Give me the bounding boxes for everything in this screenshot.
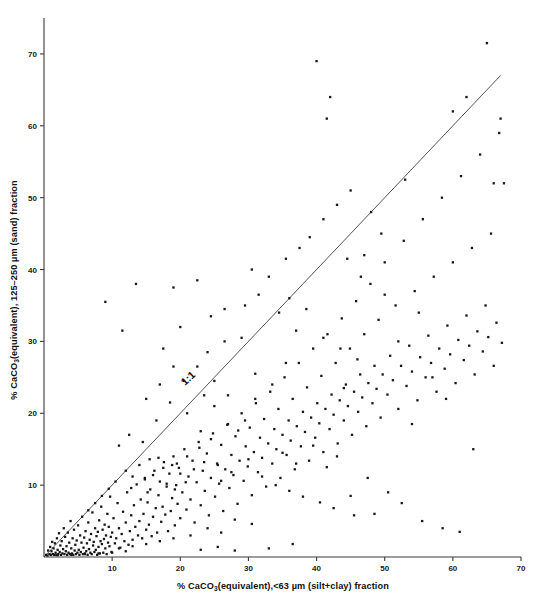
- data-point: [389, 355, 391, 357]
- data-point: [103, 538, 105, 540]
- data-point: [91, 553, 93, 555]
- data-point: [89, 539, 91, 541]
- data-point: [288, 490, 290, 492]
- data-point: [168, 472, 170, 474]
- data-point: [206, 527, 208, 529]
- data-point: [101, 543, 103, 545]
- data-point: [326, 466, 328, 468]
- data-point: [136, 483, 138, 485]
- data-point: [476, 330, 478, 332]
- data-point: [363, 254, 365, 256]
- data-point: [367, 477, 369, 479]
- data-point: [324, 408, 326, 410]
- data-point: [332, 414, 334, 416]
- data-point: [397, 340, 399, 342]
- data-point: [258, 294, 260, 296]
- data-point: [253, 451, 255, 453]
- data-point: [283, 376, 285, 378]
- data-point: [195, 481, 197, 483]
- data-point: [97, 552, 99, 554]
- data-point: [375, 388, 377, 390]
- data-point: [163, 461, 165, 463]
- data-point: [86, 542, 88, 544]
- data-point: [445, 398, 447, 400]
- data-point: [312, 444, 314, 446]
- data-point: [61, 552, 63, 554]
- data-point: [465, 96, 467, 98]
- data-point: [86, 554, 88, 556]
- data-point: [128, 434, 130, 436]
- data-point: [214, 495, 216, 497]
- data-point: [339, 347, 341, 349]
- data-point: [377, 319, 379, 321]
- data-point: [203, 394, 205, 396]
- data-point: [279, 477, 281, 479]
- data-point: [261, 475, 263, 477]
- data-point: [110, 536, 112, 538]
- data-point: [169, 401, 171, 403]
- data-point: [51, 541, 53, 543]
- data-point: [78, 549, 80, 551]
- data-point: [261, 457, 263, 459]
- data-point: [224, 468, 226, 470]
- data-point: [125, 521, 127, 523]
- data-point: [234, 435, 236, 437]
- data-point: [93, 551, 95, 553]
- data-point: [373, 513, 375, 515]
- data-point: [220, 480, 222, 482]
- data-point: [232, 474, 234, 476]
- data-point: [499, 117, 501, 119]
- data-point: [185, 508, 187, 510]
- data-point: [162, 467, 164, 469]
- data-point: [130, 514, 132, 516]
- data-point: [267, 442, 269, 444]
- data-point: [171, 497, 173, 499]
- data-point: [449, 353, 451, 355]
- data-point: [115, 537, 117, 539]
- data-point: [403, 240, 405, 242]
- data-point: [46, 554, 48, 556]
- data-point: [213, 380, 215, 382]
- data-point: [82, 553, 84, 555]
- data-point: [118, 444, 120, 446]
- data-point: [172, 455, 174, 457]
- data-point: [125, 550, 127, 552]
- data-point: [112, 517, 114, 519]
- data-point: [94, 527, 96, 529]
- data-point: [65, 550, 67, 552]
- data-point: [196, 279, 198, 281]
- data-point: [106, 513, 108, 515]
- x-tick-label: 20: [176, 564, 185, 573]
- data-point: [68, 541, 70, 543]
- annotations-group: 1:1: [178, 368, 197, 387]
- data-point: [101, 529, 103, 531]
- data-point: [191, 460, 193, 462]
- data-point: [149, 488, 151, 490]
- data-point: [328, 428, 330, 430]
- data-point: [174, 488, 176, 490]
- data-point: [281, 434, 283, 436]
- data-point: [365, 425, 367, 427]
- data-point: [257, 471, 259, 473]
- data-point: [88, 548, 90, 550]
- data-point: [265, 485, 267, 487]
- data-point: [171, 464, 173, 466]
- data-point: [322, 451, 324, 453]
- data-point: [236, 503, 238, 505]
- data-point: [281, 452, 283, 454]
- data-point: [74, 544, 76, 546]
- data-point: [108, 545, 110, 547]
- data-point: [397, 408, 399, 410]
- data-point: [305, 308, 307, 310]
- data-point: [153, 470, 155, 472]
- data-point: [76, 552, 78, 554]
- data-point: [80, 551, 82, 553]
- data-point: [234, 549, 236, 551]
- data-point: [76, 539, 78, 541]
- data-point: [454, 382, 456, 384]
- data-point: [181, 491, 183, 493]
- data-point: [196, 365, 198, 367]
- data-point: [58, 532, 60, 534]
- data-point: [387, 491, 389, 493]
- data-point: [111, 531, 113, 533]
